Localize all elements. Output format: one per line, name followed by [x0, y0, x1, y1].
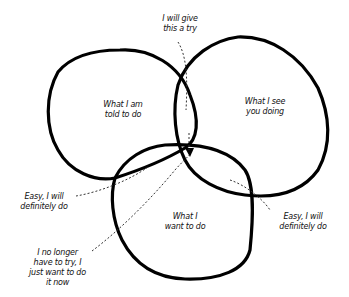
- annotation-line: definitely do: [10, 202, 78, 212]
- label-told-to-do: What I am told to do: [88, 100, 158, 120]
- label-see-you-doing: What I see you doing: [230, 97, 300, 117]
- annotation-top: I will give this a try: [150, 14, 210, 34]
- annotation-line: definitely do: [268, 222, 338, 232]
- annotation-line: I will give: [150, 14, 210, 24]
- label-line: told to do: [88, 110, 158, 120]
- annotation-line: Easy, I will: [10, 192, 78, 202]
- annotation-left: Easy, I will definitely do: [10, 192, 78, 212]
- label-want-to-do: What I want to do: [150, 212, 220, 232]
- annotation-bottom: I no longer have to try, I just want to …: [20, 248, 95, 288]
- label-line: you doing: [230, 107, 300, 117]
- annotation-line: just want to do: [20, 268, 95, 278]
- annotation-line: it now: [20, 278, 95, 288]
- label-line: What I see: [230, 97, 300, 107]
- annotation-line: I no longer: [20, 248, 95, 258]
- label-line: want to do: [150, 222, 220, 232]
- annotation-line: have to try, I: [20, 258, 95, 268]
- label-line: What I: [150, 212, 220, 222]
- annotation-line: this a try: [150, 24, 210, 34]
- label-line: What I am: [88, 100, 158, 110]
- annotation-line: Easy, I will: [268, 212, 338, 222]
- annotation-right: Easy, I will definitely do: [268, 212, 338, 232]
